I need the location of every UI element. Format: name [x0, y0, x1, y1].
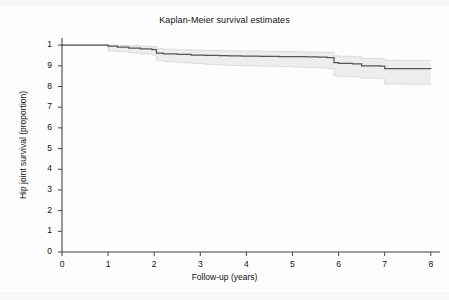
y-tick-label: 7 [30, 101, 52, 111]
y-tick-label: 1 [30, 39, 52, 49]
y-tick-label: 0 [30, 246, 52, 256]
y-tick-label: 6 [30, 122, 52, 132]
x-tick-label: 2 [144, 259, 164, 269]
y-tick-label: 3 [30, 184, 52, 194]
x-tick-label: 5 [282, 259, 302, 269]
x-tick-label: 6 [329, 259, 349, 269]
y-tick-label: 2 [30, 205, 52, 215]
x-tick-label: 1 [98, 259, 118, 269]
x-tick-label: 4 [236, 259, 256, 269]
y-tick-label: 5 [30, 143, 52, 153]
y-tick-label: 8 [30, 81, 52, 91]
chart-figure: Kaplan-Meier survival estimates Hip join… [0, 0, 449, 300]
x-tick-label: 3 [190, 259, 210, 269]
y-tick-label: 4 [30, 163, 52, 173]
x-tick-label: 0 [52, 259, 72, 269]
y-tick-label: 9 [30, 60, 52, 70]
y-tick-label: 1 [30, 225, 52, 235]
plot-area [0, 0, 449, 300]
x-tick-label: 7 [375, 259, 395, 269]
confidence-interval-band [62, 45, 431, 84]
x-tick-label: 8 [421, 259, 441, 269]
